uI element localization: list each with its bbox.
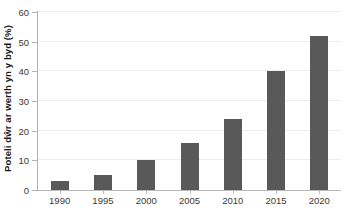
- x-tick-label: 1995: [83, 195, 123, 206]
- y-tick-label: 30: [0, 96, 38, 107]
- y-tick-label: 50: [0, 36, 38, 47]
- plot-area: [38, 12, 341, 190]
- y-tick-label: 40: [0, 66, 38, 77]
- x-tick-mark: [276, 191, 277, 194]
- y-tick-label: 0: [0, 185, 38, 196]
- x-tick-label: 2015: [256, 195, 296, 206]
- x-tick-label: 1990: [40, 195, 80, 206]
- x-tick-mark: [233, 191, 234, 194]
- x-tick-mark: [146, 191, 147, 194]
- gridline: [38, 130, 341, 131]
- bar: [137, 160, 155, 190]
- y-tick-label: 20: [0, 125, 38, 136]
- x-tick-label: 2010: [213, 195, 253, 206]
- x-tick-label: 2020: [299, 195, 339, 206]
- bar: [51, 181, 69, 190]
- x-tick-mark: [103, 191, 104, 194]
- gridline: [38, 70, 341, 71]
- bar-chart: Poteli dŵr ar werth yn y byd (%) 0102030…: [0, 0, 345, 215]
- bar: [94, 175, 112, 190]
- x-tick-mark: [60, 191, 61, 194]
- y-tick-label: 60: [0, 7, 38, 18]
- x-tick-mark: [190, 191, 191, 194]
- y-tick-label: 10: [0, 155, 38, 166]
- x-tick-mark: [319, 191, 320, 194]
- gridline: [38, 11, 341, 12]
- bar: [310, 36, 328, 190]
- x-tick-label: 2000: [126, 195, 166, 206]
- gridline: [38, 100, 341, 101]
- bar: [267, 71, 285, 190]
- gridline: [38, 41, 341, 42]
- bar: [181, 143, 199, 190]
- bar: [224, 119, 242, 190]
- x-tick-label: 2005: [170, 195, 210, 206]
